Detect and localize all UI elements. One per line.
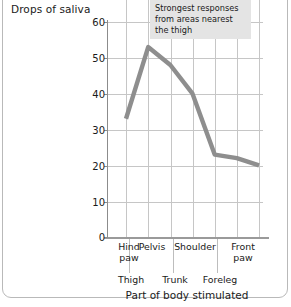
gridline-y-40 xyxy=(107,94,263,95)
y-tick-labels: 60 50 40 30 20 10 0 xyxy=(83,0,105,260)
x-label-shoulder-line1: Shoulder xyxy=(172,241,218,252)
gridline-y-50 xyxy=(107,58,263,59)
annotation-line-1: Strongest responses xyxy=(155,3,247,14)
gridline-y-30 xyxy=(107,130,263,131)
x-label-shoulder: Shoulder xyxy=(172,241,218,252)
annotation-callout: Strongest responses from areas nearest t… xyxy=(150,0,251,39)
x-label-front-paw: Front paw xyxy=(218,241,268,263)
y-tick-label-0: 0 xyxy=(85,232,105,243)
x-label-pelvis: Pelvis xyxy=(130,241,174,252)
y-tick-label-50: 50 xyxy=(85,53,105,64)
x-label-foreleg: Foreleg xyxy=(196,274,244,285)
gridline-x-hind-paw xyxy=(126,0,127,237)
x-axis-title: Part of body stimulated xyxy=(107,289,267,301)
x-label-hind-paw-line2: paw xyxy=(104,252,154,263)
x-label-pelvis-line1: Pelvis xyxy=(130,241,174,252)
gridline-y-20 xyxy=(107,166,263,167)
gridline-y-10 xyxy=(107,202,263,203)
y-tick-label-60: 60 xyxy=(85,17,105,28)
gridline-x-front-paw xyxy=(259,0,260,237)
annotation-line-3: the thigh xyxy=(155,25,247,36)
x-label-front-paw-line1: Front xyxy=(218,241,268,252)
chart-figure: Drops of saliva 60 50 40 30 20 10 0 xyxy=(0,0,291,307)
y-tick-label-30: 30 xyxy=(85,125,105,136)
x-label-trunk: Trunk xyxy=(155,274,195,285)
x-label-front-paw-line2: paw xyxy=(218,252,268,263)
y-tick-label-10: 10 xyxy=(85,197,105,208)
y-tick-label-20: 20 xyxy=(85,161,105,172)
annotation-line-2: from areas nearest xyxy=(155,14,247,25)
x-label-thigh: Thigh xyxy=(110,274,152,285)
gridline-x-thigh xyxy=(148,0,149,237)
y-tick-label-40: 40 xyxy=(85,89,105,100)
y-axis-title: Drops of saliva xyxy=(11,3,90,15)
